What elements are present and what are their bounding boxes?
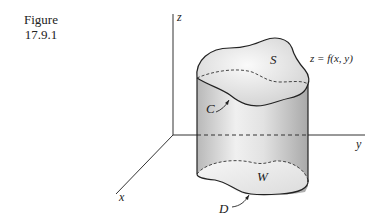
z-axis-label: z — [176, 10, 182, 24]
surface-label-S: S — [270, 52, 277, 67]
cylinder-diagram: z y x S z = f(x, y) C W D — [0, 0, 391, 222]
base-region-D — [197, 161, 308, 195]
x-axis-label: x — [118, 190, 125, 204]
equation-label: z = f(x, y) — [309, 52, 353, 65]
leader-arrow-D — [232, 195, 249, 207]
region-label-W: W — [257, 169, 269, 184]
domain-label-D: D — [218, 201, 229, 216]
x-axis — [116, 135, 173, 194]
y-axis-label: y — [355, 137, 362, 151]
axes — [116, 14, 197, 194]
curve-label-C: C — [206, 101, 215, 116]
